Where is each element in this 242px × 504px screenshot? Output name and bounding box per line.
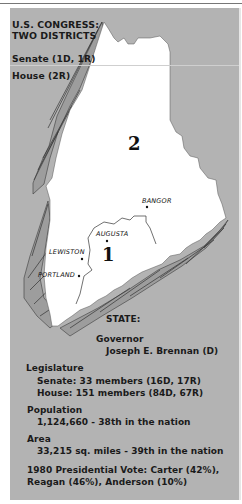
congress-house: House (2R) <box>12 70 70 81</box>
bangor-dot <box>146 206 148 208</box>
city-label-augusta: AUGUSTA <box>96 230 128 238</box>
population-label: Population <box>27 405 82 415</box>
legislature-senate: Senate: 33 members (16D, 17R) <box>37 376 201 386</box>
district-1-label: 1 <box>102 244 115 265</box>
congress-title-line2: TWO DISTRICTS <box>12 30 99 41</box>
area-value: 33,215 sq. miles - 39th in the nation <box>37 446 223 456</box>
info-panel: U.S. CONGRESS: TWO DISTRICTS Senate (1D,… <box>10 8 239 500</box>
governor-name: Joseph E. Brennan (D) <box>106 346 218 356</box>
state-outline <box>44 22 226 326</box>
population-value: 1,124,660 - 38th in the nation <box>37 417 191 427</box>
congress-senate: Senate (1D, 1R) <box>12 53 95 64</box>
separator-line <box>10 65 239 66</box>
district-2-label: 2 <box>128 133 141 154</box>
legislature-house: House: 151 members (84D, 67R) <box>37 388 203 398</box>
city-label-lewiston: LEWISTON <box>49 248 85 256</box>
panel-right-edge <box>239 8 241 500</box>
top-rule <box>0 3 242 4</box>
lewiston-dot <box>81 258 83 260</box>
augusta-dot <box>106 240 108 242</box>
portland-dot <box>78 275 80 277</box>
presidential-vote-line2: Reagan (46%), Anderson (10%) <box>27 477 187 487</box>
area-label: Area <box>27 434 51 444</box>
city-label-portland: PORTLAND <box>38 271 75 279</box>
congress-title-line1: U.S. CONGRESS: <box>12 19 99 30</box>
city-label-bangor: BANGOR <box>142 197 172 205</box>
legislature-label: Legislature <box>26 363 84 373</box>
state-heading: STATE: <box>106 314 140 324</box>
presidential-vote-line1: 1980 Presidential Vote: Carter (42%), <box>27 465 219 475</box>
governor-label: Governor <box>96 334 143 344</box>
congress-heading: U.S. CONGRESS: TWO DISTRICTS <box>12 19 99 41</box>
